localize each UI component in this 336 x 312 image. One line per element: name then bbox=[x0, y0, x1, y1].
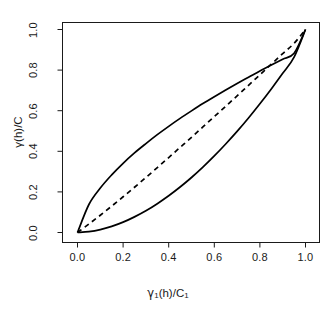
ytick-label-4: 0.8 bbox=[27, 62, 39, 78]
xtick-label-1: 0.2 bbox=[115, 251, 131, 263]
ytick-label-2: 0.4 bbox=[27, 143, 39, 159]
x-axis-title-sub2: 1 bbox=[184, 291, 188, 300]
chart-figure: 0.0 0.2 0.4 0.6 0.8 1.0 0.0 0.2 0.4 0.6 … bbox=[0, 0, 336, 312]
y-axis-ticks bbox=[58, 30, 63, 233]
plot-frame bbox=[63, 23, 320, 243]
xtick-label-0: 0.0 bbox=[70, 251, 86, 263]
xtick-label-2: 0.4 bbox=[161, 251, 177, 263]
x-axis-title: γ1(h)/C1 bbox=[147, 286, 188, 300]
chart-series-upper-bound bbox=[78, 30, 306, 233]
y-axis-title: γ(h)/C bbox=[12, 116, 24, 147]
chart-series-group bbox=[78, 30, 306, 233]
ytick-label-3: 0.6 bbox=[27, 103, 39, 119]
ytick-label-5: 1.0 bbox=[27, 22, 39, 38]
x-axis-ticks bbox=[78, 243, 306, 248]
xtick-label-5: 1.0 bbox=[298, 251, 314, 263]
xtick-label-3: 0.6 bbox=[206, 251, 222, 263]
x-axis-title-gamma: γ bbox=[147, 286, 154, 300]
ytick-label-0: 0.0 bbox=[27, 225, 39, 241]
ytick-label-1: 0.2 bbox=[27, 184, 39, 200]
plot-canvas bbox=[0, 0, 336, 312]
chart-series-middle-reference bbox=[78, 30, 306, 233]
chart-series-lower-bound bbox=[78, 30, 306, 233]
xtick-label-4: 0.8 bbox=[252, 251, 268, 263]
x-axis-title-mid: (h)/C bbox=[159, 287, 185, 299]
